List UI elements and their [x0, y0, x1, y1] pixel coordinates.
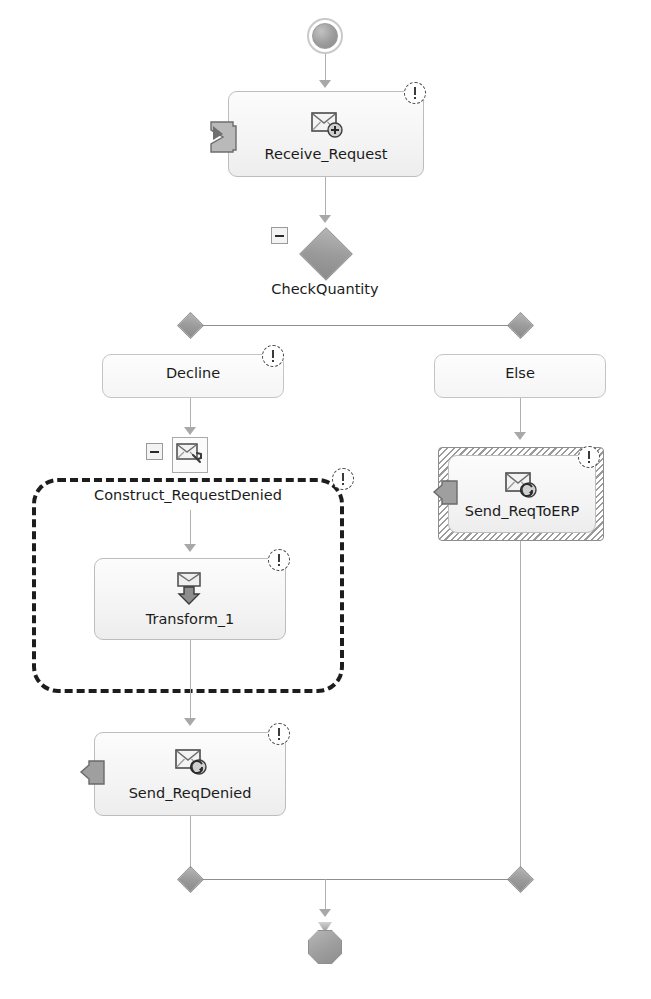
warning-icon-transform-1[interactable] — [268, 549, 290, 571]
branch-merge-node-right[interactable] — [507, 866, 534, 893]
send-message-icon — [505, 470, 539, 504]
branch-label-decline: Decline — [102, 365, 284, 381]
collapse-toggle-check-quantity[interactable] — [271, 227, 288, 244]
warning-icon-decline[interactable] — [262, 345, 284, 367]
construct-message-icon — [176, 442, 204, 472]
branch-merge-node-left[interactable] — [177, 866, 204, 893]
branch-label-else: Else — [434, 365, 606, 381]
connector-arrow — [184, 718, 196, 726]
connector-arrow — [184, 427, 196, 435]
branch-split-bar — [190, 325, 520, 326]
send-port-icon[interactable] — [78, 758, 104, 786]
connector-arrow — [319, 80, 331, 88]
receive-message-icon — [311, 110, 345, 144]
warning-icon-receive-request[interactable] — [404, 82, 426, 104]
warning-icon-construct-request-denied[interactable] — [332, 468, 354, 490]
connector-arrow — [514, 432, 526, 440]
transform-icon — [174, 572, 206, 612]
send-message-icon — [175, 747, 209, 781]
connector-transform-to-send-denied — [190, 640, 191, 724]
shape-label-receive-request: Receive_Request — [228, 146, 424, 162]
connector-arrow — [319, 215, 331, 223]
connector-send-erp-to-merge — [520, 541, 521, 879]
shape-label-send-req-denied: Send_ReqDenied — [94, 785, 286, 801]
connector-arrow — [184, 544, 196, 552]
collapse-toggle-construct-request-denied[interactable] — [146, 443, 163, 460]
warning-icon-send-req-to-erp[interactable] — [578, 446, 600, 468]
shape-check-quantity[interactable] — [299, 227, 353, 281]
shape-label-check-quantity: CheckQuantity — [225, 281, 425, 297]
shape-label-transform-1: Transform_1 — [94, 611, 286, 627]
branch-split-node-left[interactable] — [177, 312, 204, 339]
end-shape[interactable] — [308, 930, 342, 964]
branch-merge-bar — [190, 879, 520, 880]
send-port-icon[interactable] — [431, 478, 457, 506]
connector-arrow — [319, 909, 331, 917]
branch-split-node-right[interactable] — [507, 312, 534, 339]
warning-icon-send-req-denied[interactable] — [268, 723, 290, 745]
shape-label-send-req-to-erp: Send_ReqToERP — [448, 503, 596, 519]
shape-label-construct-request-denied: Construct_RequestDenied — [40, 487, 336, 503]
start-shape-dot — [312, 23, 338, 49]
end-shape-cap — [318, 922, 332, 930]
orchestration-canvas: Receive_Request CheckQuantity Decline El… — [0, 0, 651, 999]
